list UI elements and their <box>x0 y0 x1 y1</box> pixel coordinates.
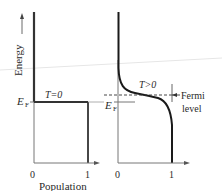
x-axis-label: Population <box>39 180 87 191</box>
left-ef-label: E <box>16 95 24 107</box>
energy-arrow-icon <box>20 13 24 19</box>
left-x-tick-0: 0 <box>30 169 35 180</box>
right-x-tick-1: 1 <box>169 169 174 180</box>
fermi-annotation-line1: Fermi <box>181 90 205 101</box>
right-panel-tpos: E F T>0 Fermi level 0 1 <box>104 12 205 180</box>
left-x-axis-arrow-icon <box>94 161 100 165</box>
energy-axis-label: Energy <box>12 44 24 76</box>
left-panel-t0: Energy E F T=0 0 1 Population <box>12 12 104 191</box>
left-ef-subscript: F <box>25 101 29 109</box>
right-x-tick-0: 0 <box>115 169 120 180</box>
fermi-dirac-diagram: Energy E F T=0 0 1 Population E F T>0 <box>0 0 222 191</box>
right-x-axis-arrow-icon <box>184 161 190 165</box>
right-temperature-label: T>0 <box>139 79 156 90</box>
left-x-tick-1: 1 <box>85 169 90 180</box>
left-temperature-label: T=0 <box>45 89 62 100</box>
right-ef-subscript: F <box>113 105 117 113</box>
fermi-annotation-arrow-icon <box>172 93 177 97</box>
right-ef-label: E <box>104 99 112 111</box>
fermi-annotation-line2: level <box>182 103 202 114</box>
